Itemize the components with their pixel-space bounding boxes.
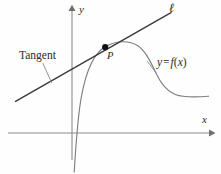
- line-ell-label: ℓ: [169, 2, 174, 15]
- function-equation-label: y=f(x): [157, 57, 187, 69]
- tangent-label-leader: [43, 64, 52, 83]
- x-axis-label: x: [202, 114, 207, 125]
- figure-canvas: [0, 0, 221, 174]
- y-axis-label: y: [79, 4, 84, 15]
- function-paren-close: ): [183, 56, 187, 68]
- x-axis-arrowhead: [209, 129, 216, 136]
- function-curve: [74, 42, 208, 172]
- tangent-label: Tangent: [19, 50, 56, 62]
- tangent-line-figure: Tangent y x P ℓ y=f(x): [0, 0, 221, 174]
- y-axis-arrowhead: [69, 5, 76, 11]
- function-equals: =: [162, 56, 171, 68]
- point-p-label: P: [107, 51, 113, 62]
- y-axis: [69, 5, 76, 160]
- x-axis: [8, 129, 216, 136]
- function-label-leader: [148, 62, 157, 74]
